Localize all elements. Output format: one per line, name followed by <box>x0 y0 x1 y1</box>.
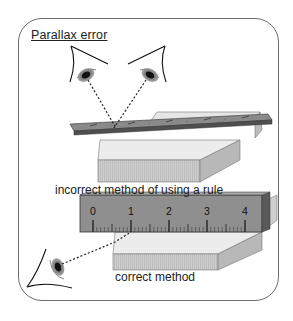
eye-bottom-icon <box>27 249 72 288</box>
caption-incorrect-method: incorrect method of using a rule <box>55 183 223 197</box>
ruler-label-4: 4 <box>242 205 248 217</box>
eye-right-icon <box>128 46 166 85</box>
ruler-correct: 0 1 2 3 4 <box>80 192 270 232</box>
ruler-label-0: 0 <box>90 205 96 217</box>
ruler-label-3: 3 <box>204 205 210 217</box>
ruler-label-2: 2 <box>166 205 172 217</box>
eye-left-icon <box>70 46 108 85</box>
caption-correct-method: correct method <box>115 270 195 284</box>
ruler-label-1: 1 <box>128 205 134 217</box>
